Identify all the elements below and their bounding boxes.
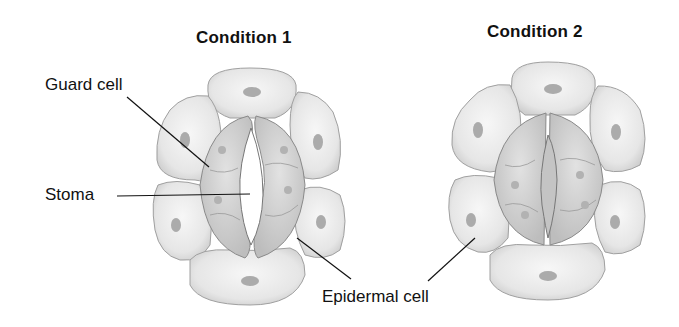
stoma-complex-condition-2 xyxy=(449,62,645,300)
stomata-diagram xyxy=(0,0,679,327)
stoma-complex-condition-1 xyxy=(153,68,345,305)
guard-cells xyxy=(200,116,305,258)
epidermal-cell-leader-2 xyxy=(428,238,475,281)
